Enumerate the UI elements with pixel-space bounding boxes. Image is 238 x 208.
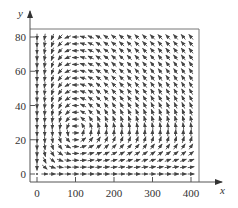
direction-arrow (144, 109, 147, 115)
direction-arrow (143, 55, 147, 60)
direction-arrow (180, 159, 186, 161)
direction-arrow (174, 144, 178, 149)
direction-arrow (152, 116, 154, 122)
direction-arrow (50, 158, 55, 162)
direction-arrow (158, 89, 162, 95)
direction-arrow (80, 57, 86, 59)
direction-arrow (173, 34, 177, 39)
direction-arrow (57, 167, 64, 168)
direction-arrow (88, 103, 93, 107)
direction-arrow (151, 137, 153, 143)
direction-arrow (44, 54, 45, 61)
direction-arrow (182, 137, 184, 143)
direction-arrow (166, 55, 170, 60)
direction-arrow (104, 49, 109, 53)
direction-arrow (158, 82, 162, 87)
direction-arrow (127, 69, 131, 74)
direction-arrow (81, 117, 86, 121)
direction-arrow (105, 116, 108, 122)
direction-arrow (166, 103, 169, 109)
direction-arrow (88, 90, 94, 94)
direction-arrow (90, 130, 91, 137)
direction-arrow (80, 63, 86, 65)
direction-arrow (65, 153, 71, 155)
direction-arrow (44, 82, 45, 89)
direction-arrow (44, 75, 45, 82)
direction-arrow (96, 56, 102, 60)
direction-arrow (52, 102, 53, 108)
direction-arrow (127, 152, 133, 155)
direction-arrow (65, 110, 70, 114)
direction-arrow (96, 83, 101, 87)
direction-arrow (142, 167, 149, 168)
direction-arrow (104, 62, 109, 66)
direction-arrow (128, 103, 131, 109)
direction-arrow (165, 152, 170, 156)
direction-arrow (89, 110, 94, 115)
direction-arrow (58, 62, 62, 67)
y-axis-label: y (17, 7, 23, 19)
direction-arrow (44, 47, 45, 54)
direction-arrow (65, 56, 71, 59)
direction-arrow (121, 116, 123, 122)
direction-arrow (96, 96, 101, 101)
direction-arrow (166, 69, 170, 74)
direction-arrow (151, 89, 155, 95)
direction-arrow (67, 123, 69, 129)
direction-arrow (112, 103, 116, 108)
direction-arrow (51, 48, 53, 54)
direction-arrow (98, 123, 100, 129)
direction-arrow (44, 41, 45, 48)
direction-arrow (59, 103, 62, 109)
direction-arrow (166, 48, 170, 53)
direction-arrow (181, 48, 185, 53)
direction-arrow (44, 68, 45, 75)
direction-arrow (120, 89, 124, 94)
direction-arrow (65, 83, 71, 86)
direction-arrow (174, 69, 178, 74)
direction-arrow (128, 116, 130, 122)
direction-arrow (127, 82, 131, 87)
direction-arrow (135, 82, 139, 87)
direction-arrow (80, 91, 86, 93)
direction-arrow (80, 153, 87, 154)
direction-arrow (112, 83, 117, 88)
direction-arrow (137, 123, 138, 130)
direction-arrow (113, 116, 115, 122)
direction-arrow (189, 75, 193, 80)
direction-arrow (150, 35, 154, 40)
direction-arrow (128, 137, 130, 143)
direction-arrow (151, 75, 155, 80)
direction-arrow (119, 144, 123, 149)
direction-arrow (119, 55, 124, 60)
direction-arrow (88, 160, 95, 161)
direction-arrow (158, 69, 162, 74)
direction-arrow (182, 109, 184, 115)
direction-arrow (106, 123, 107, 129)
direction-arrow (119, 35, 124, 39)
direction-arrow (134, 152, 140, 156)
direction-arrow (173, 151, 178, 155)
direction-arrow (119, 42, 124, 46)
direction-arrow (66, 137, 70, 142)
direction-arrow (51, 34, 54, 40)
direction-arrow (104, 76, 109, 80)
direction-arrow (120, 82, 124, 87)
direction-arrow (96, 152, 102, 154)
direction-arrow (111, 152, 117, 155)
direction-arrow (88, 56, 94, 59)
direction-arrow (135, 62, 139, 67)
direction-arrow (167, 137, 169, 143)
direction-arrow (158, 55, 162, 60)
direction-arrow (190, 109, 192, 115)
direction-arrow (65, 97, 71, 101)
direction-arrow (143, 69, 147, 74)
direction-arrow (112, 144, 117, 149)
direction-arrow (182, 89, 185, 95)
direction-arrow (105, 110, 108, 116)
direction-arrow (80, 50, 86, 52)
direction-arrow (105, 137, 108, 143)
x-tick-label: 400 (183, 187, 200, 199)
direction-arrow (44, 102, 45, 109)
direction-arrow (150, 55, 154, 60)
